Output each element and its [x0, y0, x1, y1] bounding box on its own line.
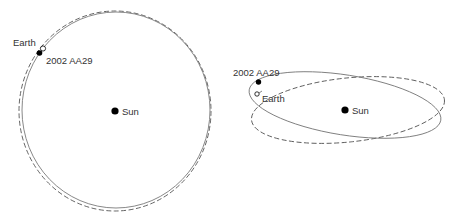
earth-label-left: Earth — [13, 37, 36, 48]
left-panel: Sun Earth 2002 AA29 — [13, 11, 211, 211]
earth-marker-right — [255, 92, 259, 96]
right-panel: Sun 2002 AA29 Earth — [233, 60, 448, 152]
sun-marker-right — [341, 106, 348, 113]
sun-label-right: Sun — [352, 105, 369, 116]
orbit-diagram: Sun Earth 2002 AA29 Sun 2002 AA29 Earth — [0, 0, 454, 222]
earth-label-right: Earth — [262, 93, 285, 104]
earth-marker-left — [40, 46, 45, 51]
sun-marker-left — [111, 107, 118, 114]
asteroid-label-left: 2002 AA29 — [46, 55, 93, 66]
sun-label-left: Sun — [122, 106, 139, 117]
asteroid-marker-right — [256, 79, 261, 84]
asteroid-label-right: 2002 AA29 — [233, 67, 280, 78]
